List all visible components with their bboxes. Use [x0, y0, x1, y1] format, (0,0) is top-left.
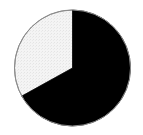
pie-chart-figure — [0, 0, 143, 135]
pie-chart-svg — [0, 0, 143, 135]
